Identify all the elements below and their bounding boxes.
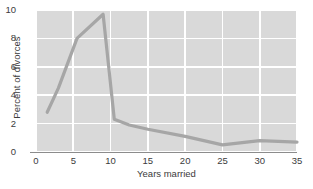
x-axis-line [30,152,297,153]
y-tick-label-6: 6 [0,62,16,72]
x-tick-label-25: 25 [207,155,237,166]
x-tick-label-35: 35 [282,155,312,166]
divorce-rate-line-chart: Percent of divorces 0246810 051015202530… [0,0,313,189]
x-tick-label-20: 20 [170,155,200,166]
x-tick-label-30: 30 [245,155,275,166]
y-tick-label-2: 2 [0,119,16,129]
data-series-line [36,10,297,152]
y-tick-label-10: 10 [0,5,16,15]
x-axis-title: Years married [36,168,297,179]
y-tick-label-4: 4 [0,90,16,100]
x-tick-label-15: 15 [133,155,163,166]
x-tick-label-0: 0 [21,155,51,166]
x-tick-label-5: 5 [58,155,88,166]
plot-area [36,10,297,152]
x-tick-label-10: 10 [96,155,126,166]
y-tick-label-0: 0 [0,147,16,157]
y-tick-label-8: 8 [0,33,16,43]
